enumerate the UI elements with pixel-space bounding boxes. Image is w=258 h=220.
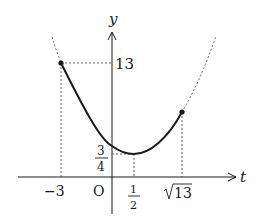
t-tick-sqrt13-radicand: 13 [174, 185, 192, 201]
t-axis-label: t [240, 168, 247, 186]
endpoint-left-dot [58, 60, 63, 65]
y-axis-label: y [108, 10, 118, 28]
t-tick-neg3: −3 [44, 183, 65, 199]
y-tick-three-quarters-numerator: 3 [97, 144, 105, 158]
origin-label: O [93, 183, 104, 199]
parabola-extension-left [52, 37, 61, 63]
t-tick-half-numerator: 1 [130, 183, 137, 196]
parabola-graph: y t O 13 3 4 −3 1 2 13 [0, 0, 258, 220]
parabola-extension-right [182, 36, 216, 112]
endpoint-right-dot [179, 109, 184, 114]
parabola-curve [61, 63, 182, 154]
y-tick-13: 13 [115, 55, 134, 73]
t-tick-half-denominator: 2 [130, 199, 137, 212]
graph-canvas: y t O 13 3 4 −3 1 2 13 [0, 0, 258, 220]
y-tick-three-quarters-denominator: 4 [97, 160, 105, 174]
